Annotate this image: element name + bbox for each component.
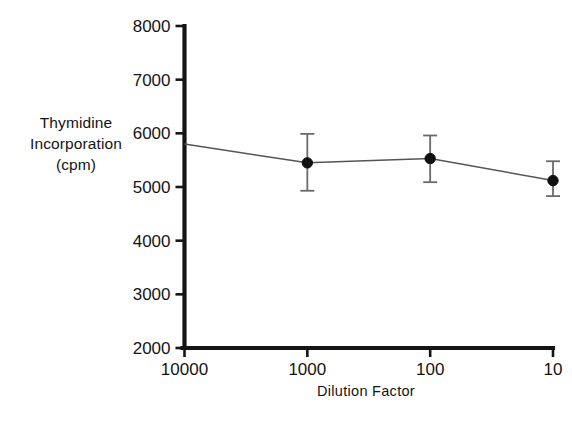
y-axis-title-line-1: Thymidine: [6, 112, 146, 133]
x-tick-label: 1000: [288, 360, 326, 379]
y-axis-title-line-3: (cpm): [6, 154, 146, 175]
data-point-marker: [302, 158, 312, 168]
axes-layer: [183, 26, 554, 348]
x-tick-label: 10: [544, 360, 563, 379]
data-point-marker: [425, 153, 435, 163]
x-tick-label: 100: [416, 360, 444, 379]
y-tick-label: 4000: [133, 232, 171, 251]
y-tick-label: 2000: [133, 339, 171, 358]
y-tick-label: 3000: [133, 285, 171, 304]
x-tick-label: 10000: [161, 360, 208, 379]
plot-area: 8000700060005000400030002000100001000100…: [0, 0, 572, 421]
data-line: [185, 144, 554, 180]
y-tick-label: 7000: [133, 71, 171, 90]
y-tick-label: 8000: [133, 17, 171, 36]
y-axis-title-line-2: Incorporation: [6, 133, 146, 154]
y-tick-label: 5000: [133, 178, 171, 197]
y-axis-title: Thymidine Incorporation (cpm): [6, 112, 146, 175]
data-point-marker: [548, 175, 558, 185]
x-axis-title: Dilution Factor: [246, 383, 486, 399]
series-layer: [185, 134, 561, 196]
chart-figure: Thymidine Incorporation (cpm) Dilution F…: [0, 0, 572, 421]
ticks-layer: 8000700060005000400030002000100001000100…: [133, 17, 563, 379]
